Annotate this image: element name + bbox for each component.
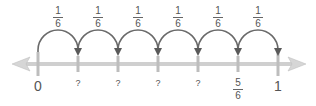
jump-label-1: 16 <box>50 6 66 29</box>
number-line-diagram <box>0 0 316 106</box>
tick-label-1: 1 <box>270 78 286 94</box>
arc-4 <box>158 30 198 52</box>
arrowhead-down-icon <box>114 48 122 56</box>
arc-3 <box>118 30 158 52</box>
arrowhead-down-icon <box>234 48 242 56</box>
jump-label-2: 16 <box>90 6 106 29</box>
arc-6 <box>238 30 278 52</box>
arrowhead-down-icon <box>74 48 82 56</box>
arrowhead-down-icon <box>194 48 202 56</box>
denominator: 6 <box>255 18 261 29</box>
denominator: 6 <box>175 18 181 29</box>
numerator: 5 <box>235 77 241 88</box>
tick-label-five-sixths: 56 <box>230 78 246 101</box>
jump-label-6: 16 <box>250 6 266 29</box>
arc-1 <box>38 30 78 52</box>
denominator: 6 <box>235 90 241 101</box>
numerator: 1 <box>135 5 141 16</box>
tick-label-unknown-2: ? <box>112 78 124 88</box>
denominator: 6 <box>135 18 141 29</box>
denominator: 6 <box>215 18 221 29</box>
jump-label-5: 16 <box>210 6 226 29</box>
tick-label-unknown-1: ? <box>72 78 84 88</box>
arrowhead-down-icon <box>154 48 162 56</box>
arc-arrowheads <box>74 48 282 56</box>
numerator: 1 <box>255 5 261 16</box>
tick-label-unknown-3: ? <box>152 78 164 88</box>
jump-label-4: 16 <box>170 6 186 29</box>
tick-label-unknown-4: ? <box>192 78 204 88</box>
denominator: 6 <box>95 18 101 29</box>
numerator: 1 <box>95 5 101 16</box>
numerator: 1 <box>215 5 221 16</box>
arc-5 <box>198 30 238 52</box>
denominator: 6 <box>55 18 61 29</box>
arrowhead-down-icon <box>274 48 282 56</box>
arc-2 <box>78 30 118 52</box>
jump-label-3: 16 <box>130 6 146 29</box>
numerator: 1 <box>55 5 61 16</box>
numerator: 1 <box>175 5 181 16</box>
tick-label-0: 0 <box>30 78 46 94</box>
